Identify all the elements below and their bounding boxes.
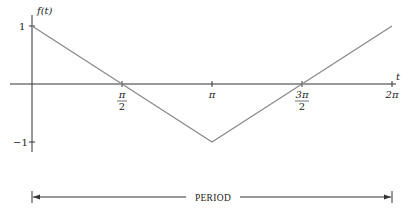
x-tick-label-pi-half-den: 2 — [119, 101, 125, 112]
chart-canvas: f(t) t 1 −1 π 2 π 3π 2 2π PERIOD — [0, 0, 407, 215]
period-label: PERIOD — [195, 193, 231, 203]
x-tick-label-pi: π — [208, 89, 216, 100]
x-tick-label-3pi-half-den: 2 — [299, 101, 305, 112]
period-right-arrow-icon — [384, 195, 391, 200]
x-tick-label-pi-half-num: π — [118, 89, 126, 100]
y-tick-label-1: 1 — [19, 21, 25, 32]
x-tick-label-2pi: 2π — [385, 89, 399, 100]
y-tick-label-neg1: −1 — [13, 137, 28, 148]
period-left-arrow-icon — [33, 195, 40, 200]
y-axis-label: f(t) — [36, 5, 53, 16]
x-tick-label-3pi-half-num: 3π — [296, 89, 309, 100]
x-axis-label: t — [396, 71, 401, 82]
